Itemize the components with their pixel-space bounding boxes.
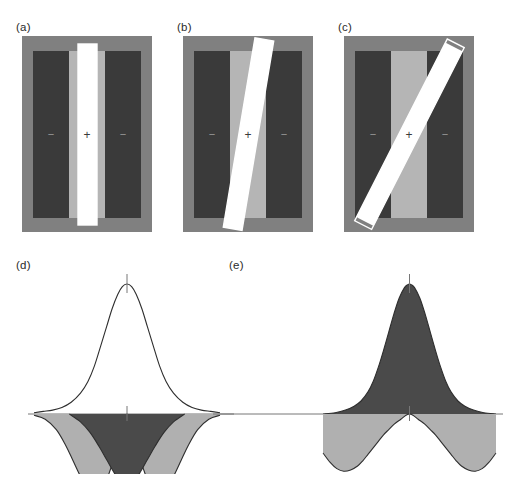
panel-a-label: (a) [16, 22, 31, 34]
panel-b: (b) [161, 16, 329, 244]
center-sign: + [405, 128, 412, 142]
figure-canvas: (a) − + − [0, 0, 506, 479]
panel-c-stimulus: − + − [344, 36, 474, 232]
left-surround-sign: − [48, 128, 54, 140]
panel-a: (a) − + − [0, 16, 168, 244]
left-surround-sign: − [209, 128, 215, 140]
right-surround-sign: − [281, 128, 287, 140]
center-sign: + [244, 128, 251, 142]
left-surround-sign: − [370, 128, 376, 140]
right-surround-sign: − [442, 128, 448, 140]
panel-c: (c) [322, 16, 494, 244]
panel-b-stimulus: − + − [183, 36, 313, 232]
right-surround-sign: − [120, 128, 126, 140]
panel-b-label: (b) [177, 22, 192, 34]
series-line-excitatory-profile [34, 284, 220, 413]
panel-a-stimulus: − + − [22, 36, 152, 232]
panel-d-plot [8, 256, 246, 474]
series-fill-excitatory-peak-dark [323, 284, 496, 414]
panel-e-plot [213, 256, 506, 474]
center-sign: + [83, 128, 90, 142]
panel-c-label: (c) [338, 22, 352, 34]
series-fill-inhibitory-lobes-light [323, 414, 496, 471]
panel-e: (e) [213, 252, 506, 479]
